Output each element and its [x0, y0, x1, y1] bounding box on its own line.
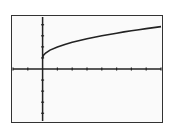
function-curve [43, 27, 161, 58]
plot-area [0, 0, 171, 138]
